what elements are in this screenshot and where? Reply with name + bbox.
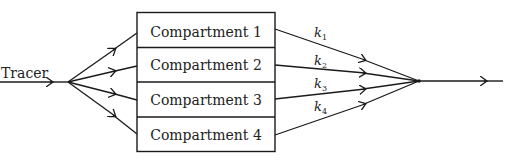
k1-label: k1 (314, 25, 327, 42)
compartment-3-label: Compartment 3 (150, 92, 262, 108)
output-converge-arrows (275, 29, 419, 135)
k4-label: k4 (314, 99, 327, 116)
rate-constant-labels: k1 k2 k3 k4 (314, 25, 327, 116)
compartment-1-label: Compartment 1 (150, 24, 262, 40)
compartment-4-label: Compartment 4 (150, 127, 262, 143)
k2-label: k2 (314, 53, 327, 70)
tracer-label: Tracer (1, 65, 49, 81)
k3-label: k3 (314, 76, 327, 93)
parallel-compartment-diagram: Tracer Compartment 1 Compartment 2 Compa… (0, 0, 522, 161)
compartment-stack: Compartment 1 Compartment 2 Compartment … (137, 13, 275, 152)
compartment-2-label: Compartment 2 (150, 57, 262, 73)
input-fan-arrows (68, 33, 137, 134)
